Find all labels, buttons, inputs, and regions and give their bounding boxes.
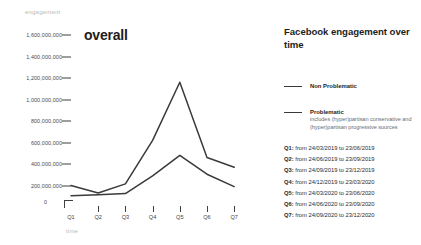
- legend-item-problematic: Problematic includes (hyper)partisan con…: [284, 108, 421, 131]
- info-panel: Facebook engagement over time Non Proble…: [284, 0, 421, 245]
- quarter-date-ranges: Q1: from 24/03/2019 to 23/06/2019Q2: fro…: [284, 143, 421, 221]
- quarter-range-text: from 24/12/2019 to 23/03/2020: [294, 179, 375, 185]
- quarter-range-text: from 24/09/2019 to 23/12/2019: [294, 167, 375, 173]
- legend-item-non-problematic: Non Problematic: [284, 82, 421, 96]
- series-lines: [0, 0, 272, 245]
- quarter-range-text: from 24/03/2019 to 23/06/2019: [294, 145, 375, 151]
- chart-legend: Non Problematic Problematic includes (hy…: [284, 82, 421, 131]
- series-line: [71, 155, 234, 195]
- legend-label: Non Problematic: [310, 82, 421, 90]
- quarter-key: Q4:: [284, 179, 294, 185]
- quarter-range-text: from 24/06/2020 to 23/09/2020: [294, 201, 375, 207]
- legend-line-swatch-icon: [284, 112, 302, 113]
- chart-page: engagement overall 200,000,000400,000,00…: [0, 0, 421, 245]
- quarter-key: Q5:: [284, 190, 294, 196]
- line-chart: engagement overall 200,000,000400,000,00…: [0, 0, 272, 245]
- quarter-key: Q2:: [284, 156, 294, 162]
- quarter-range-item: Q2: from 24/06/2019 to 23/09/2019: [284, 154, 421, 165]
- quarter-range-item: Q1: from 24/03/2019 to 23/06/2019: [284, 143, 421, 154]
- quarter-key: Q6:: [284, 201, 294, 207]
- quarter-key: Q7:: [284, 212, 294, 218]
- quarter-range-item: Q6: from 24/06/2020 to 23/09/2020: [284, 199, 421, 210]
- quarter-range-text: from 24/09/2020 to 23/12/2020: [294, 212, 375, 218]
- quarter-key: Q1:: [284, 145, 294, 151]
- quarter-range-text: from 24/03/2020 to 23/06/2020: [294, 190, 375, 196]
- legend-label: Problematic: [310, 108, 421, 116]
- quarter-range-item: Q5: from 24/03/2020 to 23/06/2020: [284, 188, 421, 199]
- quarter-range-item: Q7: from 24/09/2020 to 23/12/2020: [284, 210, 421, 221]
- quarter-key: Q3:: [284, 167, 294, 173]
- legend-description: includes (hyper)partisan conservative an…: [310, 116, 421, 131]
- panel-title: Facebook engagement over time: [284, 26, 421, 51]
- quarter-range-item: Q3: from 24/09/2019 to 23/12/2019: [284, 165, 421, 176]
- legend-line-swatch-icon: [284, 86, 302, 87]
- quarter-range-text: from 24/06/2019 to 23/09/2019: [294, 156, 375, 162]
- quarter-range-item: Q4: from 24/12/2019 to 23/03/2020: [284, 177, 421, 188]
